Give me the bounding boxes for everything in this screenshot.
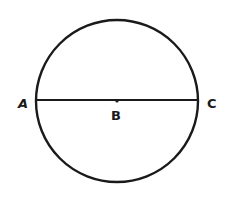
label-a: A bbox=[17, 96, 28, 111]
label-b: B bbox=[111, 108, 121, 123]
label-c: C bbox=[207, 96, 217, 111]
center-point-b bbox=[115, 99, 118, 102]
circle-diagram: A B C bbox=[0, 0, 237, 200]
diagram-canvas: A B C bbox=[0, 0, 237, 200]
